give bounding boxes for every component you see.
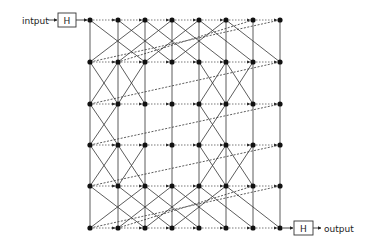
grid-node bbox=[87, 183, 92, 188]
grid-node bbox=[142, 183, 147, 188]
input-label: intput bbox=[22, 16, 49, 26]
grid-node bbox=[196, 59, 201, 64]
grid-node bbox=[169, 101, 174, 106]
diagonal-connection bbox=[118, 186, 253, 228]
grid-node bbox=[87, 17, 92, 22]
grid-node bbox=[115, 17, 120, 22]
grid-node bbox=[196, 17, 201, 22]
grid-node bbox=[115, 142, 120, 147]
grid-node bbox=[277, 225, 282, 230]
grid-node bbox=[277, 101, 282, 106]
grid-node bbox=[277, 142, 282, 147]
grid-node bbox=[142, 142, 147, 147]
grid-lines bbox=[90, 20, 280, 228]
grid-node bbox=[223, 225, 228, 230]
grid-node bbox=[196, 225, 201, 230]
grid-node bbox=[196, 101, 201, 106]
grid-node bbox=[223, 101, 228, 106]
grid-node bbox=[169, 183, 174, 188]
grid-node bbox=[196, 183, 201, 188]
diagonal-connection bbox=[90, 145, 280, 186]
input-h-label: H bbox=[64, 16, 71, 26]
grid-node bbox=[115, 59, 120, 64]
grid-node bbox=[223, 142, 228, 147]
input-section: intput H bbox=[22, 13, 87, 27]
grid-node bbox=[196, 142, 201, 147]
grid-node bbox=[169, 225, 174, 230]
grid-node bbox=[169, 17, 174, 22]
grid-node bbox=[169, 59, 174, 64]
output-label: output bbox=[324, 224, 354, 234]
grid-node bbox=[169, 142, 174, 147]
grid-node bbox=[115, 183, 120, 188]
grid-node bbox=[250, 59, 255, 64]
diagonal-connection bbox=[118, 20, 253, 62]
grid-node bbox=[142, 101, 147, 106]
signal-flow-diagram: intput H H output bbox=[0, 0, 373, 247]
grid-node bbox=[87, 142, 92, 147]
grid-node bbox=[250, 142, 255, 147]
output-h-label: H bbox=[300, 224, 307, 234]
grid-node bbox=[142, 225, 147, 230]
grid-node bbox=[277, 183, 282, 188]
diagonal-connection bbox=[90, 62, 280, 104]
grid-node bbox=[250, 101, 255, 106]
grid-node bbox=[87, 59, 92, 64]
grid-node bbox=[250, 17, 255, 22]
grid-node bbox=[223, 183, 228, 188]
diagonal-connection bbox=[90, 104, 280, 145]
grid-node bbox=[277, 17, 282, 22]
grid-node bbox=[223, 17, 228, 22]
grid-node bbox=[87, 101, 92, 106]
grid-node bbox=[250, 183, 255, 188]
grid-node bbox=[87, 225, 92, 230]
output-section: H output bbox=[283, 221, 354, 235]
grid-node bbox=[250, 225, 255, 230]
grid-node bbox=[142, 59, 147, 64]
grid-node bbox=[277, 59, 282, 64]
grid-node bbox=[142, 17, 147, 22]
grid-node bbox=[115, 101, 120, 106]
grid-node bbox=[223, 59, 228, 64]
grid-node bbox=[115, 225, 120, 230]
